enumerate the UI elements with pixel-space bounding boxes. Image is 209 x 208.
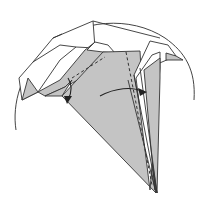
origami-diagram [0,0,209,208]
